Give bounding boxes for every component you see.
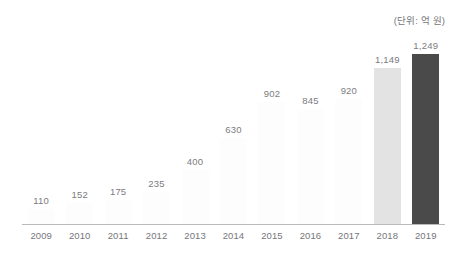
bar bbox=[182, 170, 209, 224]
bar-value-label: 920 bbox=[341, 86, 357, 96]
bar-group: 175 bbox=[99, 34, 137, 224]
bar bbox=[335, 99, 362, 224]
x-axis-tick-label: 2010 bbox=[60, 230, 98, 241]
bar-group: 630 bbox=[214, 34, 252, 224]
bar-value-label: 235 bbox=[148, 179, 164, 189]
bar-group: 1,249 bbox=[407, 34, 445, 224]
bar-group: 902 bbox=[253, 34, 291, 224]
bar-group: 152 bbox=[60, 34, 98, 224]
bar-group: 400 bbox=[176, 34, 214, 224]
bar-value-label: 400 bbox=[187, 157, 203, 167]
x-axis-line bbox=[22, 224, 445, 225]
bar-value-label: 1,249 bbox=[413, 41, 438, 51]
bar bbox=[66, 203, 93, 224]
bar-chart: (단위: 억 원) 1101521752354006309028459201,1… bbox=[0, 0, 459, 261]
x-axis-tick-label: 2018 bbox=[368, 230, 406, 241]
bar bbox=[258, 102, 285, 224]
x-axis-tick-label: 2009 bbox=[22, 230, 60, 241]
bar bbox=[220, 138, 247, 224]
bar-value-label: 902 bbox=[264, 89, 280, 99]
x-axis-tick-label: 2011 bbox=[99, 230, 137, 241]
bar bbox=[143, 192, 170, 224]
bar-value-label: 630 bbox=[225, 125, 241, 135]
x-axis-tick-label: 2016 bbox=[291, 230, 329, 241]
bar-group: 235 bbox=[137, 34, 175, 224]
x-axis-tick-label: 2014 bbox=[214, 230, 252, 241]
bar-value-label: 1,149 bbox=[375, 55, 400, 65]
plot-area: 1101521752354006309028459201,1491,249 bbox=[22, 34, 445, 224]
x-axis-tick-label: 2013 bbox=[176, 230, 214, 241]
x-axis-labels: 2009201020112012201320142015201620172018… bbox=[22, 230, 445, 241]
bar-group: 920 bbox=[330, 34, 368, 224]
bar bbox=[412, 54, 439, 224]
bar-value-label: 845 bbox=[302, 96, 318, 106]
x-axis-tick-label: 2019 bbox=[407, 230, 445, 241]
bar-value-label: 175 bbox=[110, 187, 126, 197]
bar bbox=[297, 109, 324, 224]
bar-group: 845 bbox=[291, 34, 329, 224]
bar bbox=[105, 200, 132, 224]
bar bbox=[374, 68, 401, 224]
bar-group: 1,149 bbox=[368, 34, 406, 224]
bar-group: 110 bbox=[22, 34, 60, 224]
x-axis-tick-label: 2017 bbox=[330, 230, 368, 241]
x-axis-tick-label: 2012 bbox=[137, 230, 175, 241]
unit-caption: (단위: 억 원) bbox=[394, 13, 445, 27]
x-axis-tick-label: 2015 bbox=[253, 230, 291, 241]
bar-value-label: 110 bbox=[33, 196, 49, 206]
bar bbox=[28, 209, 55, 224]
bar-value-label: 152 bbox=[71, 190, 87, 200]
bars-container: 1101521752354006309028459201,1491,249 bbox=[22, 34, 445, 224]
